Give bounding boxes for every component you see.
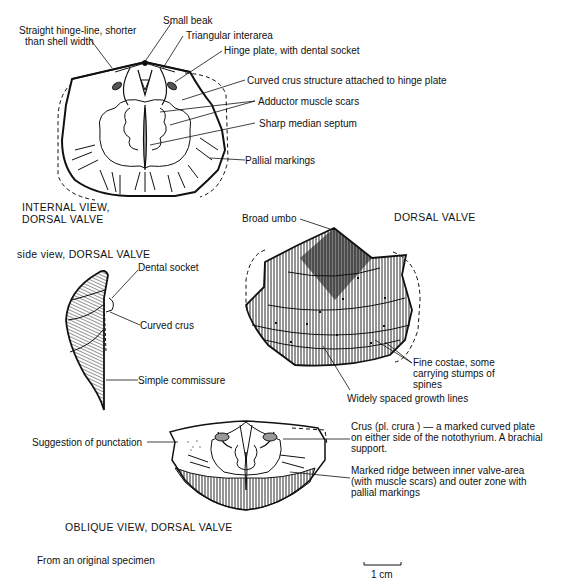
label-punctation: Suggestion of punctation <box>32 437 142 448</box>
brachiopod-dorsal-valve-diagram: Straight hinge-line, shorter than shell … <box>0 0 574 588</box>
exterior-view-drawing <box>246 228 420 366</box>
label-triangular-interarea: Triangular interarea <box>186 30 273 41</box>
label-broad-umbo: Broad umbo <box>242 213 296 224</box>
label-small-beak: Small beak <box>163 15 212 26</box>
label-curved-crus-structure: Curved crus structure attached to hinge … <box>247 75 447 86</box>
label-hinge-plate: Hinge plate, with dental socket <box>224 45 360 56</box>
label-median-septum: Sharp median septum <box>259 118 357 129</box>
label-crus-definition-cont2: support. <box>351 443 387 454</box>
caption-oblique-view: OBLIQUE VIEW, DORSAL VALVE <box>65 521 233 533</box>
label-fine-costae-cont: carrying stumps of <box>413 368 495 379</box>
scale-bar-graphic <box>364 562 401 565</box>
diagram-artwork <box>0 0 574 588</box>
side-view-leaders <box>106 270 140 380</box>
oblique-view-drawing <box>170 421 327 510</box>
label-growth-lines: Widely spaced growth lines <box>347 393 468 404</box>
scale-bar-label: 1 cm <box>371 569 393 580</box>
caption-internal-view: INTERNAL VIEW, <box>22 201 110 213</box>
label-curved-crus: Curved crus <box>140 320 194 331</box>
caption-internal-view-cont: DORSAL VALVE <box>22 213 104 225</box>
label-pallial-markings: Pallial markings <box>245 155 315 166</box>
source-note: From an original specimen <box>37 555 155 566</box>
label-hinge-line: Straight hinge-line, shorter <box>19 25 136 36</box>
label-marked-ridge: Marked ridge between inner valve-area <box>351 465 524 476</box>
label-marked-ridge-cont2: pallial markings <box>351 487 420 498</box>
label-crus-definition-cont: on either side of the notothyrium. A bra… <box>351 432 543 443</box>
label-fine-costae-cont2: spines <box>413 379 442 390</box>
side-view-drawing <box>66 271 113 410</box>
internal-view-leaders <box>90 22 255 160</box>
label-fine-costae: Fine costae, some <box>413 357 495 368</box>
internal-view-drawing <box>58 61 228 201</box>
caption-dorsal-valve: DORSAL VALVE <box>394 211 476 223</box>
label-hinge-line-cont: than shell width <box>25 36 94 47</box>
label-adductor-muscle-scars: Adductor muscle scars <box>258 96 359 107</box>
label-marked-ridge-cont: (with muscle scars) and outer zone with <box>351 476 527 487</box>
label-crus-definition: Crus (pl. crura ) — a marked curved plat… <box>351 421 535 432</box>
caption-side-view: side view, DORSAL VALVE <box>17 248 150 260</box>
label-dental-socket: Dental socket <box>138 262 199 273</box>
label-simple-commissure: Simple commissure <box>138 375 225 386</box>
